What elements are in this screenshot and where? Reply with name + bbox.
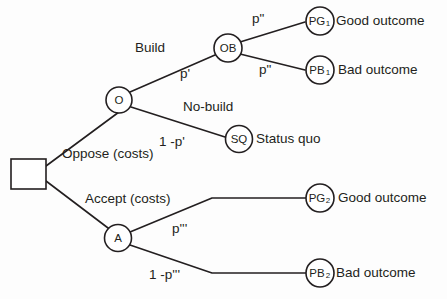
node-pb2-sub: 2 xyxy=(326,271,331,280)
branch-label-build: Build xyxy=(135,41,165,55)
branch-label-oppose: Oppose (costs) xyxy=(62,147,154,161)
prob-label-p-prime: p' xyxy=(180,67,190,81)
node-pb1-sub: 1 xyxy=(326,68,331,77)
node-pb1-label: PB xyxy=(309,64,325,76)
decision-node-square[interactable] xyxy=(11,159,46,189)
node-a-label: A xyxy=(114,232,122,244)
node-ob-label: OB xyxy=(220,42,237,54)
edge-root-to-accept xyxy=(46,181,112,231)
prob-label-p-triple-prime: p''' xyxy=(172,222,187,236)
edge-ob-to-pg1 xyxy=(240,22,305,42)
edge-ob-to-pb1 xyxy=(240,54,305,70)
node-o-label: O xyxy=(115,94,124,106)
outcome-label-pg2: Good outcome xyxy=(338,191,427,205)
prob-label-p-double-prime-bad: p" xyxy=(259,63,271,77)
prob-label-p-double-prime-good: p" xyxy=(252,12,264,26)
prob-label-one-minus-p-prime: 1 -p' xyxy=(159,135,185,149)
node-pg2-sub: 2 xyxy=(326,196,331,205)
outcome-label-pb2: Bad outcome xyxy=(336,266,416,280)
outcome-label-pg1: Good outcome xyxy=(336,14,425,28)
branch-label-no-build: No-build xyxy=(183,100,233,114)
outcome-label-sq: Status quo xyxy=(256,132,321,146)
node-pg2-label: PG xyxy=(309,192,326,204)
decision-tree-diagram: O OB SQ A PG 1 PB 1 PG 2 PB 2 Build No-b… xyxy=(0,0,447,299)
node-pg1-sub: 1 xyxy=(326,19,331,28)
branch-label-accept: Accept (costs) xyxy=(85,192,171,206)
node-pg1-label: PG xyxy=(309,15,326,27)
node-pb2-label: PB xyxy=(309,267,325,279)
outcome-label-pb1: Bad outcome xyxy=(338,63,418,77)
edge-o-to-ob xyxy=(130,55,215,92)
node-sq-label: SQ xyxy=(231,133,248,145)
prob-label-one-minus-p-triple-prime: 1 -p''' xyxy=(149,268,180,282)
